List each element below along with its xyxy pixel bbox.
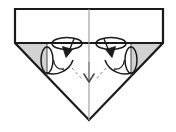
origami-diagram: Origami step diagram xyxy=(0,0,176,132)
origami-figure-svg xyxy=(0,0,176,132)
